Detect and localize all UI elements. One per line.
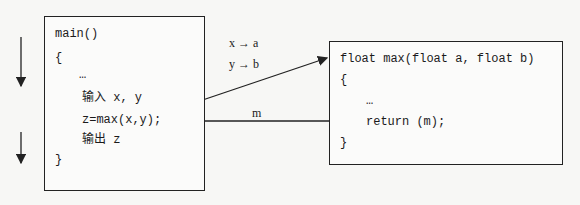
return-value-label: m: [252, 106, 261, 121]
main-line-1: {: [55, 51, 62, 65]
main-line-2: …: [79, 68, 86, 82]
max-line-4: }: [340, 136, 347, 150]
main-line-0: main(): [55, 27, 98, 41]
main-line-3: 输入 x, y: [82, 91, 142, 105]
max-line-0: float max(float a, float b): [340, 52, 534, 66]
main-line-5: 输出 z: [82, 133, 120, 147]
max-line-2: …: [366, 94, 373, 108]
main-line-6: }: [55, 153, 62, 167]
param-map-x: x → a: [229, 36, 258, 51]
param-map-y: y → b: [229, 57, 259, 72]
max-line-3: return (m);: [366, 115, 445, 129]
max-line-1: {: [340, 73, 347, 87]
main-line-4: z=max(x,y);: [82, 113, 161, 127]
